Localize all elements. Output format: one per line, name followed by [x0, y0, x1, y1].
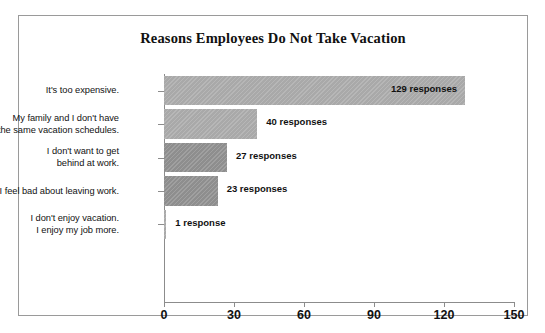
- category-label-2-line-1: behind at work.: [0, 158, 119, 170]
- x-tick-mark-30: [234, 302, 235, 307]
- bar-row-4: 1 response: [164, 208, 514, 241]
- category-label-1: My family and I don't have the same vaca…: [0, 113, 119, 136]
- bar-row-0: 129 responses: [164, 74, 514, 107]
- x-tick-mark-0: [164, 302, 165, 307]
- category-label-4-line-0: I don't enjoy vacation.: [0, 213, 119, 225]
- bar-value-3: 23 responses: [227, 183, 288, 194]
- x-tick-label-30: 30: [214, 308, 254, 322]
- bar-value-2: 27 responses: [236, 150, 297, 161]
- category-label-3-line-0: I feel bad about leaving work.: [0, 186, 119, 198]
- category-label-4-line-1: I enjoy my job more.: [0, 225, 119, 237]
- bar-row-3: 23 responses: [164, 174, 514, 207]
- category-label-1-line-0: My family and I don't have: [0, 113, 119, 125]
- x-tick-label-90: 90: [354, 308, 394, 322]
- category-label-2-line-0: I don't want to get: [0, 146, 119, 158]
- chart-title: Reasons Employees Do Not Take Vacation: [19, 30, 527, 47]
- bar-row-1: 40 responses: [164, 107, 514, 140]
- x-tick-label-0: 0: [144, 308, 184, 322]
- category-label-1-line-1: the same vacation schedules.: [0, 125, 119, 137]
- x-tick-label-60: 60: [284, 308, 324, 322]
- category-label-4: I don't enjoy vacation. I enjoy my job m…: [0, 213, 119, 236]
- x-tick-mark-150: [514, 302, 515, 307]
- x-tick-mark-90: [374, 302, 375, 307]
- category-label-2: I don't want to get behind at work.: [0, 146, 119, 169]
- x-axis-line: [164, 302, 514, 303]
- plot-area: 129 responses 40 responses 27 responses …: [164, 74, 514, 302]
- bar-1[interactable]: [164, 109, 257, 138]
- bar-4[interactable]: [164, 210, 166, 239]
- bar-value-4: 1 response: [175, 217, 225, 228]
- x-tick-mark-60: [304, 302, 305, 307]
- chart-figure: Reasons Employees Do Not Take Vacation I…: [18, 15, 528, 316]
- bar-3[interactable]: [164, 176, 218, 205]
- bar-value-1: 40 responses: [266, 116, 327, 127]
- x-tick-label-150: 150: [494, 308, 534, 322]
- category-label-3: I feel bad about leaving work.: [0, 186, 119, 198]
- bar-value-0: 129 responses: [391, 83, 457, 94]
- bar-row-2: 27 responses: [164, 141, 514, 174]
- bar-2[interactable]: [164, 143, 227, 172]
- category-label-0: It's too expensive.: [0, 85, 119, 97]
- x-tick-mark-120: [444, 302, 445, 307]
- category-label-0-line-0: It's too expensive.: [0, 85, 119, 97]
- x-tick-label-120: 120: [424, 308, 464, 322]
